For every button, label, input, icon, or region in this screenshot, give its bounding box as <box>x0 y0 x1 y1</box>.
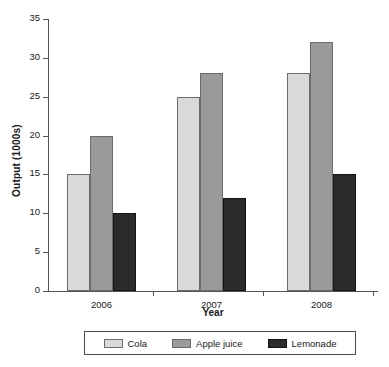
y-tick: 35 <box>43 19 48 20</box>
x-tick <box>263 291 264 296</box>
bar <box>223 198 246 291</box>
legend-swatch <box>172 339 191 348</box>
legend-swatch <box>268 339 287 348</box>
x-tick <box>373 291 374 296</box>
y-tick: 10 <box>43 213 48 214</box>
legend-swatch <box>104 339 123 348</box>
y-tick: 30 <box>43 58 48 59</box>
x-tick <box>153 291 154 296</box>
legend-item[interactable]: Lemonade <box>268 338 337 349</box>
y-tick-label: 15 <box>29 167 40 179</box>
bar-chart: Output (1000s) 05101520253035 2006200720… <box>0 0 389 367</box>
y-axis-line <box>48 19 49 291</box>
bar <box>310 42 333 291</box>
y-tick-label: 0 <box>35 284 40 296</box>
y-tick: 15 <box>43 174 48 175</box>
y-tick-label: 25 <box>29 90 40 102</box>
bar <box>90 136 113 291</box>
bar <box>177 97 200 291</box>
y-tick-label: 35 <box>29 12 40 24</box>
legend-label: Apple juice <box>196 338 242 349</box>
y-axis-label: Output (1000s) <box>11 101 22 221</box>
y-tick-label: 20 <box>29 129 40 141</box>
y-tick: 25 <box>43 97 48 98</box>
bar <box>67 174 90 291</box>
chart-legend: ColaApple juiceLemonade <box>84 331 356 355</box>
legend-item[interactable]: Apple juice <box>172 338 242 349</box>
x-axis-label: Year <box>48 307 378 318</box>
bar <box>113 213 136 291</box>
bar <box>200 73 223 291</box>
y-tick-label: 10 <box>29 206 40 218</box>
y-tick: 20 <box>43 136 48 137</box>
legend-item[interactable]: Cola <box>104 338 148 349</box>
y-tick-label: 5 <box>35 245 40 257</box>
y-tick: 5 <box>43 252 48 253</box>
bar <box>333 174 356 291</box>
y-tick-label: 30 <box>29 51 40 63</box>
x-axis-line <box>48 291 378 292</box>
bar <box>287 73 310 291</box>
legend-label: Lemonade <box>292 338 337 349</box>
y-tick: 0 <box>43 291 48 292</box>
plot-area: 05101520253035 200620072008 <box>48 19 378 291</box>
legend-label: Cola <box>128 338 148 349</box>
